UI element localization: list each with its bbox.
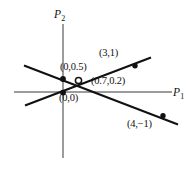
y-axis-label: P2 xyxy=(54,9,65,21)
marker-point-3-1 xyxy=(132,63,137,68)
marker-point-0-0.5 xyxy=(60,76,66,82)
x-axis-label-subscript: 1 xyxy=(180,92,184,101)
label-point-4-minus-1: (4,−1) xyxy=(127,119,152,130)
label-point-0.7-0.2: (0.7,0.2) xyxy=(91,76,125,87)
figure-canvas xyxy=(0,0,189,175)
y-axis-label-subscript: 2 xyxy=(61,14,65,23)
marker-point-0.7-0.2 xyxy=(75,77,81,83)
x-axis-label-text: P xyxy=(173,86,180,98)
marker-point-4-minus-1 xyxy=(160,113,165,118)
label-point-3-1: (3,1) xyxy=(99,48,118,59)
x-axis-label: P1 xyxy=(173,87,184,99)
label-point-0-0.5: (0,0.5) xyxy=(60,62,87,73)
y-axis-label-text: P xyxy=(54,8,61,20)
price-lines-figure: P2 P1 (0,0.5) (0.7,0.2) (0,0) (3,1) (4,−… xyxy=(0,0,189,175)
label-point-0-0: (0,0) xyxy=(59,93,78,104)
line-through-origin xyxy=(25,58,151,106)
